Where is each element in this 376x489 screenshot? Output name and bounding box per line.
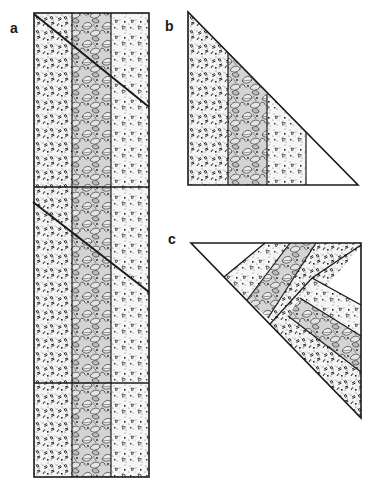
strip-dash-print	[34, 13, 72, 477]
strip-leaf-print	[228, 12, 267, 185]
panel-c-chevron-triangle	[191, 243, 361, 418]
panel-b-triangle	[188, 12, 358, 185]
panel-a-strip-band	[33, 13, 149, 477]
strip-dash-print	[188, 12, 228, 185]
diagram-canvas	[0, 0, 376, 489]
strip-leaf-print	[72, 13, 111, 477]
strip-triangle-print	[111, 13, 149, 477]
